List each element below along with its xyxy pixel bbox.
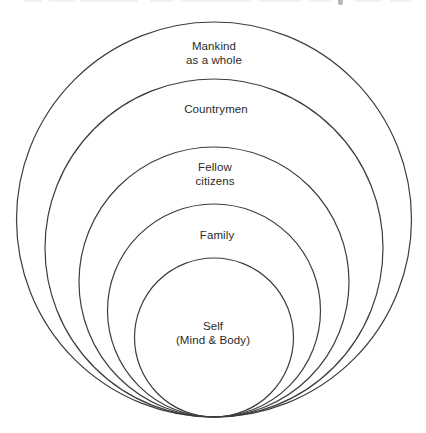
cropped-text-dash	[150, 0, 173, 2]
circle-mankind	[17, 22, 412, 417]
ring-label-family: Family	[200, 229, 234, 243]
cropped-text-dash	[309, 0, 331, 2]
cropped-text-dash	[49, 0, 76, 2]
cropped-text-dash	[80, 0, 138, 2]
circle-fellow-citizens	[79, 147, 349, 417]
ring-label-fellow-citizens: Fellow citizens	[195, 161, 234, 188]
cropped-text-dash	[259, 0, 301, 2]
ring-label-self: Self (Mind & Body)	[176, 320, 250, 347]
cropped-text-dash	[355, 0, 381, 2]
ring-label-mankind: Mankind as a whole	[186, 40, 242, 67]
cropped-text-dash	[390, 0, 411, 2]
cropped-text-dash	[24, 0, 42, 2]
cropped-text-dash	[181, 0, 251, 2]
circle-countrymen	[45, 79, 383, 417]
ring-label-countrymen: Countrymen	[184, 103, 248, 117]
concentric-circles-diagram: Mankind as a wholeCountrymenFellow citiz…	[0, 0, 426, 433]
cropped-letter-fragment	[338, 0, 343, 5]
